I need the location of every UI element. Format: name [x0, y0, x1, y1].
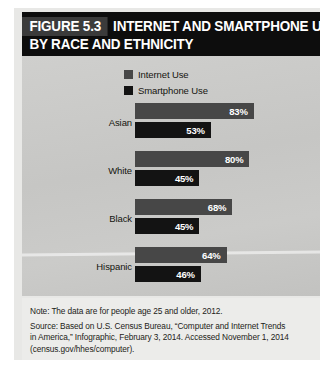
- category-label-white: White: [108, 165, 132, 176]
- source-text-line-2: in America,” Infographic, February 3, 20…: [30, 332, 310, 343]
- source-block: Source: Based on U.S. Census Bureau, “Co…: [30, 321, 310, 355]
- chart-plot-area: Internet Use Smartphone Use Asian 83% 53…: [22, 56, 320, 296]
- figure-container: FIGURE 5.3INTERNET AND SMARTPHONE USE, B…: [14, 8, 320, 360]
- bar-internet-black: 68%: [135, 199, 232, 215]
- bar-value-internet-hispanic: 64%: [202, 250, 226, 261]
- legend-item-smartphone-use: Smartphone Use: [124, 84, 208, 97]
- legend-label-smartphone-use: Smartphone Use: [138, 85, 208, 96]
- legend-swatch-internet-use: [124, 70, 133, 79]
- legend-item-internet-use: Internet Use: [124, 68, 208, 81]
- figure-title-main: INTERNET AND SMARTPHONE USE,: [113, 18, 320, 35]
- legend-swatch-smartphone-use: [124, 86, 133, 95]
- source-text-line-1: Source: Based on U.S. Census Bureau, “Co…: [30, 321, 310, 332]
- bar-group-white: White 80% 45%: [22, 148, 320, 196]
- bar-internet-hispanic: 64%: [135, 247, 227, 263]
- note-block: Note: The data are for people age 25 and…: [30, 306, 310, 317]
- category-label-asian: Asian: [109, 117, 132, 128]
- figure-title-bar: FIGURE 5.3INTERNET AND SMARTPHONE USE, B…: [22, 12, 320, 56]
- figure-notes: Note: The data are for people age 25 and…: [22, 298, 320, 360]
- bar-smartphone-asian: 53%: [135, 122, 211, 138]
- bar-group-hispanic: Hispanic 64% 46%: [22, 244, 320, 292]
- legend-label-internet-use: Internet Use: [138, 69, 189, 80]
- bar-smartphone-white: 45%: [135, 170, 199, 186]
- bar-value-internet-black: 68%: [208, 202, 232, 213]
- bar-value-smartphone-white: 45%: [175, 173, 199, 184]
- figure-title-line-2: BY RACE AND ETHNICITY: [22, 36, 299, 53]
- bar-value-internet-white: 80%: [225, 154, 249, 165]
- category-label-hispanic: Hispanic: [96, 261, 132, 272]
- bar-groups: Asian 83% 53% White 80% 45% Black: [22, 100, 320, 292]
- bar-smartphone-black: 45%: [135, 218, 199, 234]
- bar-group-asian: Asian 83% 53%: [22, 100, 320, 148]
- bar-value-smartphone-hispanic: 46%: [176, 269, 200, 280]
- bar-value-smartphone-black: 45%: [175, 221, 199, 232]
- bar-value-smartphone-asian: 53%: [186, 125, 210, 136]
- note-text: Note: The data are for people age 25 and…: [30, 306, 310, 317]
- bar-value-internet-asian: 83%: [229, 106, 253, 117]
- category-label-black: Black: [109, 213, 132, 224]
- bar-smartphone-hispanic: 46%: [135, 266, 201, 282]
- bar-internet-asian: 83%: [135, 103, 254, 119]
- chart-legend: Internet Use Smartphone Use: [124, 68, 208, 100]
- figure-number-badge: FIGURE 5.3: [22, 17, 108, 36]
- bar-internet-white: 80%: [135, 151, 249, 167]
- figure-title-line-1: FIGURE 5.3INTERNET AND SMARTPHONE USE,: [22, 17, 299, 36]
- source-text-line-3: (census.gov/hhes/computer).: [30, 344, 310, 355]
- bar-group-black: Black 68% 45%: [22, 196, 320, 244]
